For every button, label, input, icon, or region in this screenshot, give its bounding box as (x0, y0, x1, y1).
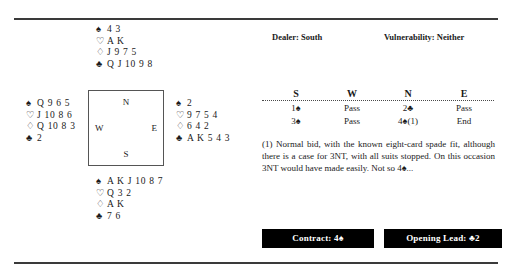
west-clubs: 2 (37, 133, 42, 145)
bid-cell: 1♠ (268, 101, 324, 114)
spade-icon: ♠ (96, 176, 107, 188)
east-clubs-row: ♣ A K 5 4 3 (176, 133, 230, 145)
diamond-icon: ♢ (26, 121, 37, 133)
commentary-text: (1) Normal bid, with the known eight-car… (262, 139, 495, 174)
east-spades-row: ♠ 2 (176, 98, 230, 110)
north-diamonds-row: ♢ J 9 7 5 (96, 47, 153, 59)
result-bar: Contract: 4♠ Opening Lead: ♣2 (262, 229, 502, 248)
north-spades-row: ♠ 4 3 (96, 24, 153, 36)
compass-box: N W E S (88, 90, 164, 166)
east-hearts: 9 7 5 4 (187, 110, 218, 122)
east-diamonds: 6 4 2 (187, 121, 210, 133)
opening-lead-value: ♣2 (469, 233, 480, 243)
hand-diagram: ♠ 4 3 ♡ A K ♢ J 9 7 5 ♣ Q J 10 9 8 ♠ Q 9… (18, 24, 262, 256)
contract-label: Contract: (292, 233, 331, 243)
south-clubs: 7 6 (107, 211, 121, 223)
hand-south: ♠ A K J 10 8 7 ♡ Q 3 2 ♢ A K ♣ 7 6 (96, 176, 163, 222)
compass-west-label: W (95, 123, 104, 133)
south-hearts-row: ♡ Q 3 2 (96, 188, 163, 200)
club-icon: ♣ (26, 133, 37, 145)
diamond-icon: ♢ (176, 121, 187, 133)
compass-east-label: E (152, 123, 158, 133)
vulnerability-label: Vulnerability: Neither (384, 32, 464, 42)
west-hearts: J 10 8 6 (37, 110, 72, 122)
east-clubs: A K 5 4 3 (187, 133, 230, 145)
west-diamonds-row: ♢ Q 10 8 3 (26, 121, 76, 133)
hand-east: ♠ 2 ♡ 9 7 5 4 ♢ 6 4 2 ♣ A K 5 4 3 (176, 98, 230, 144)
north-diamonds: J 9 7 5 (107, 47, 137, 59)
top-divider-rule (14, 18, 498, 20)
dealer-label: Dealer: South (262, 32, 384, 42)
bottom-divider-rule (14, 262, 498, 264)
bid-cell: 2♣ (380, 101, 436, 114)
heart-icon: ♡ (26, 110, 37, 122)
auction-header-south: S (268, 88, 324, 100)
auction-header-north: N (380, 88, 436, 100)
spade-icon: ♠ (26, 98, 37, 110)
south-spades-row: ♠ A K J 10 8 7 (96, 176, 163, 188)
board-details-column: Dealer: South Vulnerability: Neither S W… (262, 24, 498, 174)
west-spades-row: ♠ Q 9 6 5 (26, 98, 76, 110)
bid-cell: 4♠(1) (380, 114, 436, 127)
auction-header-east: E (436, 88, 492, 100)
diamond-icon: ♢ (96, 47, 107, 59)
auction-header-west: W (324, 88, 380, 100)
south-diamonds: A K (107, 199, 125, 211)
south-hearts: Q 3 2 (107, 188, 132, 200)
table-row: 1♠ Pass 2♣ Pass (268, 101, 492, 114)
board-meta: Dealer: South Vulnerability: Neither (262, 32, 498, 42)
contract-value: 4♠ (334, 233, 344, 243)
spade-icon: ♠ (96, 24, 107, 36)
heart-icon: ♡ (176, 110, 187, 122)
east-hearts-row: ♡ 9 7 5 4 (176, 110, 230, 122)
bid-cell: 3♠ (268, 114, 324, 127)
heart-icon: ♡ (96, 36, 107, 48)
north-hearts-row: ♡ A K (96, 36, 153, 48)
contract-badge: Contract: 4♠ (262, 229, 374, 248)
west-hearts-row: ♡ J 10 8 6 (26, 110, 76, 122)
north-spades: 4 3 (107, 24, 121, 36)
west-spades: Q 9 6 5 (37, 98, 70, 110)
south-diamonds-row: ♢ A K (96, 199, 163, 211)
bid-cell: Pass (436, 101, 492, 114)
south-spades: A K J 10 8 7 (107, 176, 163, 188)
opening-lead-label: Opening Lead: (406, 233, 466, 243)
bid-cell: End (436, 114, 492, 127)
west-diamonds: Q 10 8 3 (37, 121, 76, 133)
table-row: 3♠ Pass 4♠(1) End (268, 114, 492, 127)
hand-north: ♠ 4 3 ♡ A K ♢ J 9 7 5 ♣ Q J 10 9 8 (96, 24, 153, 70)
bid-cell: Pass (324, 114, 380, 127)
opening-lead-badge: Opening Lead: ♣2 (384, 229, 502, 248)
compass-north-label: N (123, 97, 130, 107)
north-clubs: Q J 10 9 8 (107, 59, 153, 71)
north-hearts: A K (107, 36, 125, 48)
west-clubs-row: ♣ 2 (26, 133, 76, 145)
club-icon: ♣ (176, 133, 187, 145)
spade-icon: ♠ (176, 98, 187, 110)
compass-south-label: S (123, 149, 128, 159)
east-diamonds-row: ♢ 6 4 2 (176, 121, 230, 133)
south-clubs-row: ♣ 7 6 (96, 211, 163, 223)
north-clubs-row: ♣ Q J 10 9 8 (96, 59, 153, 71)
club-icon: ♣ (96, 211, 107, 223)
auction-header-row: S W N E (268, 88, 492, 100)
auction-table: S W N E 1♠ Pass 2♣ Pass (262, 88, 498, 127)
bridge-hand-record: ♠ 4 3 ♡ A K ♢ J 9 7 5 ♣ Q J 10 9 8 ♠ Q 9… (0, 0, 508, 276)
diamond-icon: ♢ (96, 199, 107, 211)
bid-cell: Pass (324, 101, 380, 114)
east-spades: 2 (187, 98, 192, 110)
club-icon: ♣ (96, 59, 107, 71)
heart-icon: ♡ (96, 188, 107, 200)
hand-west: ♠ Q 9 6 5 ♡ J 10 8 6 ♢ Q 10 8 3 ♣ 2 (26, 98, 76, 144)
